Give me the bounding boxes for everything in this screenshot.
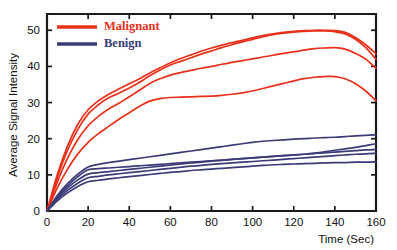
x-tick-label: 0 xyxy=(44,216,50,228)
y-tick-label: 20 xyxy=(27,133,40,145)
y-tick-label: 40 xyxy=(27,60,40,72)
y-tick-label: 30 xyxy=(27,97,40,109)
x-tick-label: 140 xyxy=(325,216,344,228)
x-tick-label: 160 xyxy=(366,216,385,228)
y-tick-label: 0 xyxy=(34,205,40,217)
y-tick-label: 50 xyxy=(27,24,40,36)
y-tick-label: 10 xyxy=(27,169,40,181)
x-tick-label: 120 xyxy=(284,216,303,228)
x-axis-title: Time (Sec) xyxy=(318,233,374,245)
x-tick-label: 100 xyxy=(243,216,262,228)
plot-background xyxy=(0,0,397,250)
x-tick-label: 20 xyxy=(82,216,95,228)
legend-label-malignant: Malignant xyxy=(104,19,160,33)
x-tick-label: 80 xyxy=(205,216,218,228)
x-tick-label: 60 xyxy=(164,216,177,228)
legend-label-benign: Benign xyxy=(104,36,142,50)
x-tick-label: 40 xyxy=(123,216,136,228)
y-axis-title: Average Signal Intensity xyxy=(7,53,19,177)
signal-intensity-line-chart: 01020304050 020406080100120140160 Malign… xyxy=(0,0,397,250)
chart-figure: 01020304050 020406080100120140160 Malign… xyxy=(0,0,397,250)
